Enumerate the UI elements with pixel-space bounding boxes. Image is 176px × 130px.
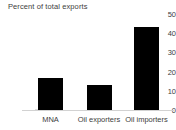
- y-tick-label: 50: [142, 10, 176, 19]
- x-tick-label: MNA: [42, 115, 59, 124]
- bar: [38, 78, 63, 110]
- bar-chart: Percent of total exports 01020304050 MNA…: [0, 0, 176, 130]
- x-tick-label: Oil importers: [125, 115, 168, 124]
- x-tick-label: Oil exporters: [78, 115, 121, 124]
- axis-baseline: [22, 110, 174, 111]
- bar: [134, 27, 159, 110]
- bar: [87, 85, 112, 110]
- plot-area: 01020304050 MNAOil exportersOil importer…: [0, 0, 176, 130]
